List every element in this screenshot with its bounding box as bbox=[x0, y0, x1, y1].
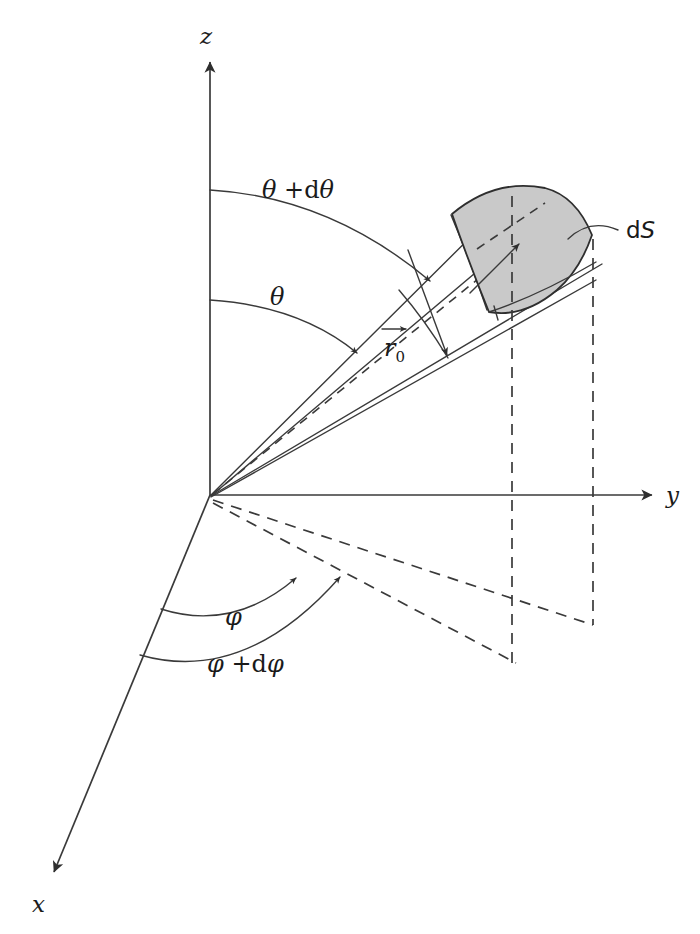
z-axis-label: z bbox=[199, 23, 213, 49]
theta-plus-dtheta-label: θ +dθ bbox=[262, 176, 335, 204]
x-axis-label: x bbox=[32, 891, 45, 917]
r-zero-label: r0 bbox=[384, 334, 405, 366]
figure-root: z y x θ +dθ θ r0 φ φ +dφ dS bbox=[0, 0, 700, 934]
phi-plus-dphi-phi2: φ bbox=[267, 650, 284, 678]
spherical-coordinates-diagram: z y x θ +dθ θ r0 φ φ +dφ dS bbox=[0, 0, 700, 934]
phi-plus-dphi-label: φ +dφ bbox=[207, 650, 284, 678]
ds-d-letter: d bbox=[626, 217, 641, 243]
x-axis-line bbox=[54, 495, 210, 872]
theta-plus-dtheta-d: d bbox=[304, 176, 319, 204]
theta-plus-dtheta-theta1: θ bbox=[262, 176, 277, 204]
phi-plus-dphi-ray-dashed bbox=[213, 503, 516, 663]
phi-label: φ bbox=[225, 603, 242, 631]
label-group: z y x θ +dθ θ r0 φ φ +dφ dS bbox=[32, 23, 680, 917]
phi-plus-dphi-phi1: φ bbox=[207, 650, 224, 678]
ds-label: dS bbox=[626, 217, 655, 243]
phi-plus-dphi-operator: + bbox=[224, 650, 252, 678]
cone-edge-lower-back bbox=[211, 280, 596, 497]
theta-label: θ bbox=[270, 283, 285, 311]
y-axis-label: y bbox=[665, 482, 680, 508]
theta-plus-dtheta-operator: + bbox=[276, 176, 304, 204]
phi-ray-dashed bbox=[213, 500, 593, 625]
axis-group bbox=[54, 62, 652, 872]
solid-angle-wedge bbox=[211, 186, 618, 497]
theta-plus-dtheta-theta2: θ bbox=[320, 176, 335, 204]
ds-s-letter: S bbox=[641, 217, 656, 243]
r-zero-subscript: 0 bbox=[395, 348, 405, 366]
phi-plus-dphi-d: d bbox=[252, 650, 267, 678]
